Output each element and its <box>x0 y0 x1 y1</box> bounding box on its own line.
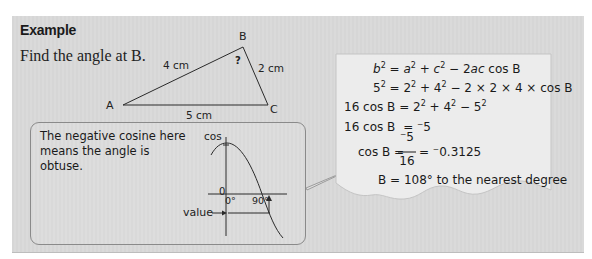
solution-line-6: B = 108° to the nearest degree <box>378 174 567 186</box>
solution-line-5-result: = ⁻0.3125 <box>419 146 481 158</box>
solution-line-5-denominator: 16 <box>397 155 417 167</box>
fraction-bar <box>0 0 592 259</box>
